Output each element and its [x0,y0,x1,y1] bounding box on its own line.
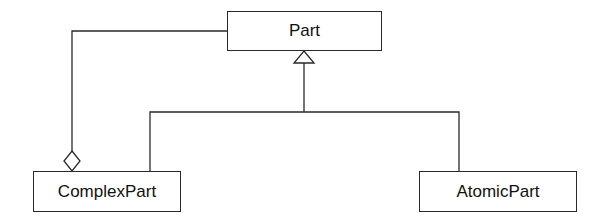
class-name: Part [289,21,320,41]
class-part: Part [227,11,382,51]
generalization-bar [150,112,459,172]
class-complexpart: ComplexPart [33,171,181,212]
aggregation-diamond-icon [64,151,80,171]
class-name: AtomicPart [456,182,539,202]
class-atomicpart: AtomicPart [419,171,577,212]
generalization-triangle-icon [294,51,314,63]
class-name: ComplexPart [58,182,156,202]
